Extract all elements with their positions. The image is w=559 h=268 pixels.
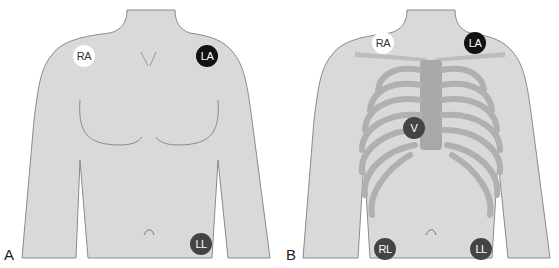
- electrode-rl-b: RL: [374, 238, 396, 260]
- electrode-v-b: V: [403, 117, 425, 139]
- electrode-la-b: LA: [464, 32, 486, 54]
- electrode-ra-b: RA: [372, 32, 394, 54]
- electrode-la-a: LA: [196, 45, 218, 67]
- electrode-ra-a: RA: [73, 45, 95, 67]
- panel-label-b: B: [286, 246, 296, 263]
- torso-a: [22, 10, 270, 258]
- electrode-ll-a: LL: [190, 233, 212, 255]
- panel-label-a: A: [4, 246, 14, 263]
- torso-b: [303, 10, 550, 258]
- electrode-ll-b: LL: [470, 238, 492, 260]
